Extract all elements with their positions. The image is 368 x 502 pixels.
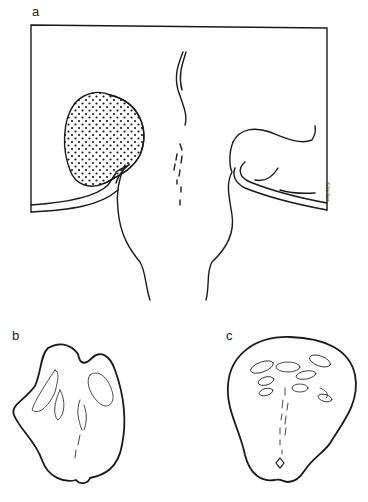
illustration-canvas: Sänchez [0,0,368,502]
panel-b-drawing [13,344,124,483]
panel-c-drawing [228,337,356,482]
artist-signature: Sänchez [325,182,331,202]
panel-a-drawing [31,25,327,300]
